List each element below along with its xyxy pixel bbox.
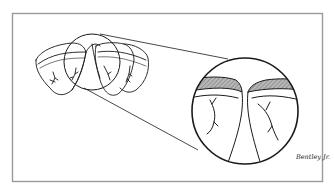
svg-text:Bentley Jr.: Bentley Jr. <box>295 153 330 161</box>
magnify-source-circle <box>64 34 120 90</box>
illustration: Bentley Jr. <box>0 0 334 192</box>
magnified-detail <box>190 58 300 168</box>
artist-signature: Bentley Jr. <box>295 153 330 161</box>
overview-structure <box>36 43 149 96</box>
